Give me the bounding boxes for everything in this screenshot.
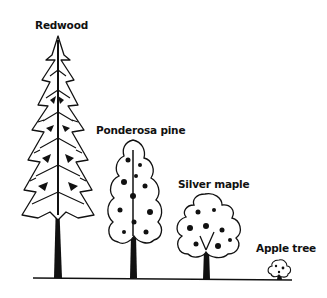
silver-maple-tree-icon <box>177 194 240 279</box>
redwood-tree-icon <box>22 36 94 278</box>
ponderosa-pine-label: Ponderosa pine <box>96 124 185 136</box>
redwood-label: Redwood <box>35 19 88 31</box>
apple-tree-label: Apple tree <box>256 242 316 254</box>
tree-height-comparison-diagram: Redwood Ponderosa pine Silver maple Appl… <box>0 0 327 298</box>
apple-tree-icon <box>268 260 290 280</box>
ponderosa-pine-tree-icon <box>108 140 162 278</box>
ground-line <box>33 278 292 280</box>
silver-maple-label: Silver maple <box>178 178 249 190</box>
